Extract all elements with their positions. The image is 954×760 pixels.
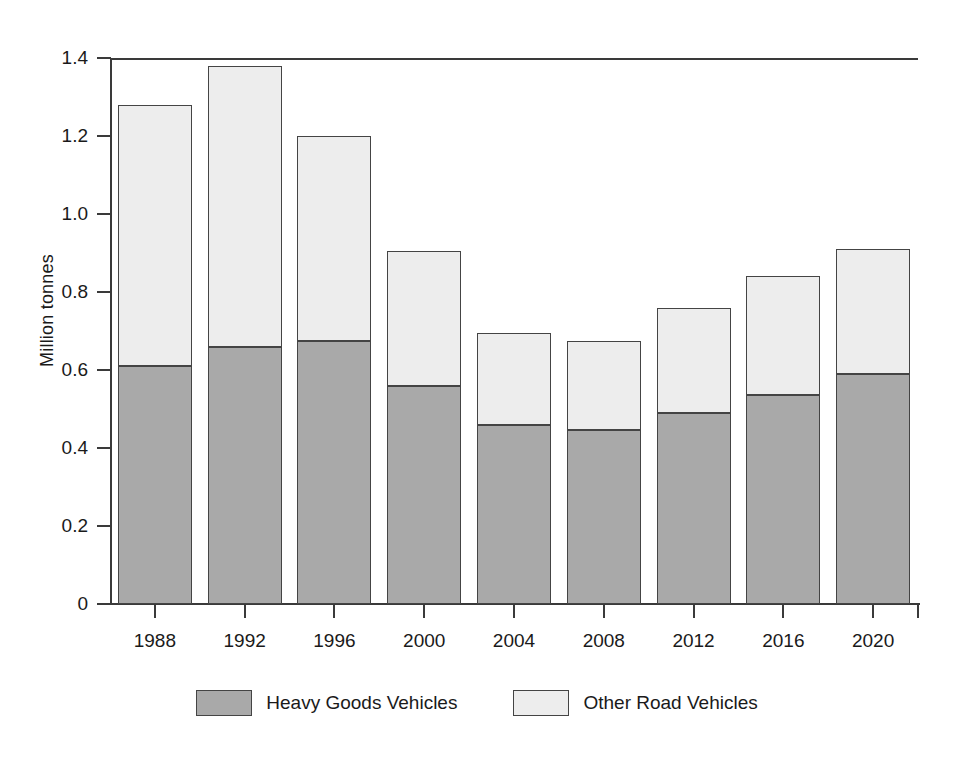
- x-axis-tick: [782, 604, 784, 618]
- y-axis-tick: [97, 291, 111, 293]
- y-axis-title: Million tonnes: [37, 201, 58, 421]
- bar-stack: [567, 341, 641, 604]
- y-axis-tick: [97, 447, 111, 449]
- x-axis-tick: [513, 604, 515, 618]
- bar-stack: [118, 105, 192, 604]
- legend-swatch-heavy-goods-vehicles: [196, 690, 252, 716]
- x-axis-tick: [333, 604, 335, 618]
- y-axis-tick: [97, 57, 111, 59]
- y-axis-tick-label: 0.8: [26, 281, 88, 303]
- bar-segment-other-road-vehicles: [477, 333, 551, 425]
- x-axis-tick-label: 2020: [813, 630, 933, 652]
- y-axis-tick-label: 1.4: [26, 47, 88, 69]
- y-axis-tick-label: 1.2: [26, 125, 88, 147]
- y-axis-tick: [97, 135, 111, 137]
- bar-segment-other-road-vehicles: [297, 136, 371, 341]
- bar-segment-heavy-goods-vehicles: [208, 347, 282, 604]
- y-axis-tick-label: 0.2: [26, 515, 88, 537]
- y-axis-tick-label: 1.0: [26, 203, 88, 225]
- x-axis-tick: [244, 604, 246, 618]
- bar-segment-heavy-goods-vehicles: [567, 430, 641, 604]
- bar-segment-other-road-vehicles: [208, 66, 282, 347]
- chart-legend: Heavy Goods Vehicles Other Road Vehicles: [0, 690, 954, 716]
- y-axis-tick: [97, 525, 111, 527]
- bar-segment-heavy-goods-vehicles: [477, 425, 551, 604]
- bar-segment-other-road-vehicles: [836, 249, 910, 374]
- legend-swatch-other-road-vehicles: [513, 690, 569, 716]
- y-axis-tick-label: 0.6: [26, 359, 88, 381]
- bar-segment-heavy-goods-vehicles: [387, 386, 461, 604]
- y-axis-tick-label: 0: [26, 593, 88, 615]
- x-axis-tick: [693, 604, 695, 618]
- bar-segment-other-road-vehicles: [746, 276, 820, 395]
- bar-segment-other-road-vehicles: [387, 251, 461, 386]
- bar-stack: [836, 249, 910, 604]
- bar-segment-heavy-goods-vehicles: [746, 395, 820, 604]
- x-axis-tick: [154, 604, 156, 618]
- legend-label-heavy-goods-vehicles: Heavy Goods Vehicles: [266, 692, 457, 714]
- x-axis-tick: [423, 604, 425, 618]
- bar-stack: [477, 333, 551, 604]
- stacked-bar-chart: Million tonnes 00.20.40.60.81.01.21.4 19…: [0, 0, 954, 760]
- bar-segment-heavy-goods-vehicles: [297, 341, 371, 604]
- bar-stack: [657, 308, 731, 604]
- bar-stack: [297, 136, 371, 604]
- bar-segment-other-road-vehicles: [657, 308, 731, 413]
- legend-item-heavy-goods-vehicles: Heavy Goods Vehicles: [196, 690, 457, 716]
- x-axis-tick: [603, 604, 605, 618]
- x-axis-tick-end: [917, 604, 919, 618]
- bar-stack: [208, 66, 282, 604]
- bar-segment-heavy-goods-vehicles: [118, 366, 192, 604]
- x-axis-tick: [872, 604, 874, 618]
- bar-segment-heavy-goods-vehicles: [836, 374, 910, 604]
- bar-segment-other-road-vehicles: [567, 341, 641, 431]
- y-axis-tick: [97, 213, 111, 215]
- y-axis-tick: [97, 369, 111, 371]
- bar-segment-other-road-vehicles: [118, 105, 192, 366]
- legend-label-other-road-vehicles: Other Road Vehicles: [583, 692, 757, 714]
- y-axis-tick-label: 0.4: [26, 437, 88, 459]
- bar-stack: [387, 251, 461, 604]
- y-axis-tick: [97, 603, 111, 605]
- legend-item-other-road-vehicles: Other Road Vehicles: [513, 690, 757, 716]
- bar-stack: [746, 276, 820, 604]
- bar-segment-heavy-goods-vehicles: [657, 413, 731, 604]
